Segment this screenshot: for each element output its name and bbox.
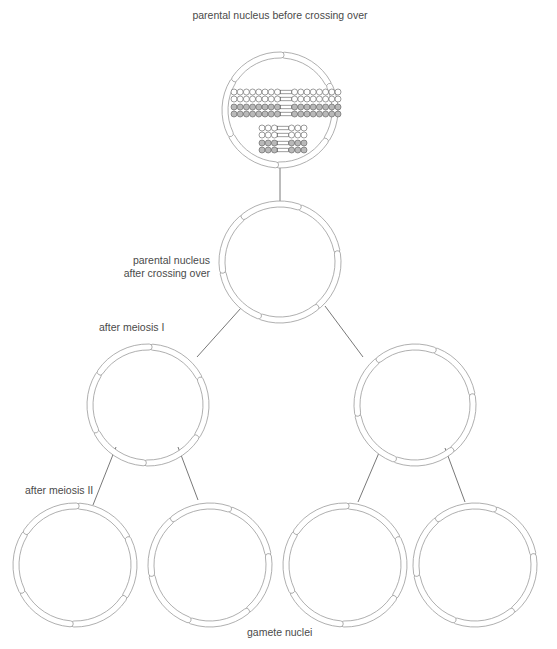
- envelope-segment: [316, 251, 341, 309]
- gene-bead: [265, 147, 271, 153]
- gene-bead: [292, 111, 298, 117]
- envelope-segment: [414, 574, 456, 623]
- centromere: [281, 112, 292, 116]
- gene-bead: [304, 104, 310, 110]
- gene-bead: [301, 140, 307, 146]
- envelope-segment: [229, 507, 271, 556]
- gene-bead: [243, 96, 249, 102]
- meiosis-diagram: [0, 0, 557, 649]
- gene-bead: [323, 96, 329, 102]
- gene-bead: [274, 96, 280, 102]
- gene-bead: [329, 111, 335, 117]
- gene-bead: [268, 111, 274, 117]
- envelope-segment: [392, 537, 407, 599]
- gene-bead: [231, 104, 237, 110]
- envelope-segment: [283, 531, 298, 593]
- label-after-meiosis-1: after meiosis I: [99, 321, 164, 333]
- centromere: [281, 105, 292, 109]
- gene-bead: [262, 104, 268, 110]
- gene-bead: [298, 89, 304, 95]
- gene-bead: [237, 104, 243, 110]
- gene-bead: [335, 111, 341, 117]
- gene-bead: [271, 147, 277, 153]
- gene-bead: [268, 96, 274, 102]
- envelope-segment: [281, 52, 331, 86]
- gene-bead: [335, 96, 341, 102]
- envelope-segment: [188, 608, 249, 627]
- envelope-segment: [148, 518, 174, 577]
- gene-bead: [316, 104, 322, 110]
- envelope-segment: [150, 344, 202, 380]
- connector-lines: [93, 166, 465, 505]
- gene-bead: [271, 140, 277, 146]
- gene-bead: [329, 96, 335, 102]
- gene-bead: [301, 147, 307, 153]
- centromere: [278, 141, 289, 145]
- envelope-segment: [232, 52, 284, 82]
- envelope-segment: [144, 435, 199, 466]
- gene-bead: [304, 89, 310, 95]
- gene-bead: [301, 132, 307, 138]
- gene-bead: [316, 89, 322, 95]
- gene-bead: [298, 104, 304, 110]
- gene-bead: [289, 147, 295, 153]
- gene-bead: [310, 89, 316, 95]
- gene-bead: [256, 96, 262, 102]
- gene-bead: [271, 125, 277, 131]
- label-after-crossing-line2: after crossing over: [110, 267, 210, 279]
- gene-bead: [292, 96, 298, 102]
- envelope-segment: [97, 344, 152, 375]
- gene-bead: [274, 104, 280, 110]
- gene-bead: [237, 89, 243, 95]
- connector-after-to-left: [197, 308, 241, 357]
- envelope-segment: [13, 531, 28, 593]
- gene-bead: [262, 111, 268, 117]
- envelope-segment: [341, 595, 397, 627]
- long-chromatid-3: [231, 104, 341, 110]
- gene-bead: [268, 89, 274, 95]
- gene-bead: [295, 125, 301, 131]
- connector-right-to-g3: [358, 448, 381, 502]
- nucleus-gamete-4: [413, 503, 537, 627]
- gene-bead: [310, 111, 316, 117]
- centromere: [281, 97, 292, 101]
- nucleus-gamete-1: [13, 503, 137, 627]
- short-chromatid-2: [259, 132, 307, 138]
- gene-bead: [335, 89, 341, 95]
- gene-bead: [323, 111, 329, 117]
- gene-bead: [274, 89, 280, 95]
- gene-bead: [259, 140, 265, 146]
- short-chromatid-1: [259, 125, 307, 131]
- envelope-segment: [435, 503, 496, 522]
- connector-after-to-right: [325, 306, 363, 357]
- gene-bead: [323, 89, 329, 95]
- gene-bead: [295, 140, 301, 146]
- nucleus-gamete-2: [148, 503, 272, 627]
- envelope-segment: [122, 537, 137, 599]
- gene-bead: [259, 132, 265, 138]
- nucleus-parental-after: [219, 201, 341, 323]
- gene-bead: [256, 111, 262, 117]
- gene-bead: [304, 96, 310, 102]
- gene-bead: [289, 125, 295, 131]
- gene-bead: [262, 89, 268, 95]
- envelope-segment: [71, 595, 127, 627]
- label-after-meiosis-2: after meiosis II: [25, 484, 93, 496]
- gene-bead: [259, 125, 265, 131]
- gene-bead: [295, 147, 301, 153]
- long-chromatid-4: [231, 111, 341, 117]
- centromere: [278, 126, 289, 130]
- nuclei-group: [13, 52, 537, 627]
- gene-bead: [298, 96, 304, 102]
- gene-bead: [304, 111, 310, 117]
- gene-bead: [231, 96, 237, 102]
- label-before-crossing: parental nucleus before crossing over: [180, 9, 380, 21]
- envelope-segment: [299, 205, 340, 253]
- gene-bead: [289, 132, 295, 138]
- envelope-segment: [434, 348, 475, 396]
- gene-bead: [231, 89, 237, 95]
- label-gamete-nuclei: gamete nuclei: [247, 626, 312, 638]
- short-chromatid-4: [259, 147, 307, 153]
- gene-bead: [262, 96, 268, 102]
- label-after-crossing-line1: parental nucleus: [110, 254, 210, 266]
